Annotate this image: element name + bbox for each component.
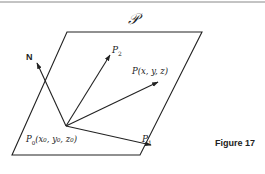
normal-label: N (26, 52, 33, 62)
plane-label: 𝒫 (128, 10, 143, 28)
p1-vector (66, 126, 151, 145)
p2-label: P2 (111, 45, 122, 57)
plane-figure: 𝒫 N P2 P(x, y, z) P1 P0(x₀, y₀, z₀) Figu… (0, 0, 265, 174)
normal-vector (37, 63, 66, 126)
p-label: P(x, y, z) (131, 66, 168, 76)
figure-caption: Figure 17 (215, 138, 255, 148)
origin-label: P0(x₀, y₀, z₀) (25, 134, 77, 146)
